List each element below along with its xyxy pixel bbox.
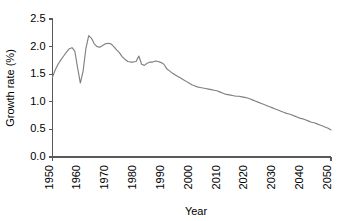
data-series-group xyxy=(53,36,332,130)
x-tick-label: 1950 xyxy=(43,165,55,189)
growth-rate-line-chart: 0.00.51.01.52.02.5 195019601970198019902… xyxy=(0,0,351,221)
y-tick-label: 1.5 xyxy=(30,67,45,79)
x-tick-label: 2050 xyxy=(321,165,333,189)
x-axis-title: Year xyxy=(185,205,208,217)
x-tick-label: 2040 xyxy=(293,165,305,189)
x-tick-label: 2000 xyxy=(182,165,194,189)
x-tick-label: 2020 xyxy=(237,165,249,189)
x-tick-label: 1970 xyxy=(98,165,110,189)
y-tick-label: 2.0 xyxy=(30,40,45,52)
y-axis-tick-labels: 0.00.51.01.52.02.5 xyxy=(30,12,45,162)
y-tick-label: 1.0 xyxy=(30,95,45,107)
x-tick-label: 1980 xyxy=(126,165,138,189)
y-tick-label: 0.5 xyxy=(30,122,45,134)
x-axis-tick-labels: 1950196019701980199020002010202020302040… xyxy=(43,165,334,189)
x-tick-label: 1960 xyxy=(70,165,82,189)
x-tick-label: 2030 xyxy=(265,165,277,189)
y-axis-group: 0.00.51.01.52.02.5 xyxy=(30,12,52,162)
series-line-0 xyxy=(53,36,332,130)
y-tick-label: 2.5 xyxy=(30,12,45,24)
x-tick-label: 2010 xyxy=(210,165,222,189)
chart-canvas: 0.00.51.01.52.02.5 195019601970198019902… xyxy=(0,0,351,221)
x-tick-label: 1990 xyxy=(154,165,166,189)
y-tick-label: 0.0 xyxy=(30,150,45,162)
x-axis-ticks xyxy=(53,157,332,161)
y-axis-title: Growth rate (%) xyxy=(4,49,16,127)
x-axis-group: 1950196019701980199020002010202020302040… xyxy=(43,157,334,189)
